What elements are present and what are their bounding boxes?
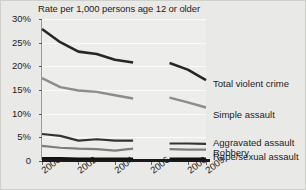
x-axis-tick	[188, 162, 189, 165]
x-axis-tick	[115, 162, 116, 165]
y-axis-tick	[39, 66, 42, 67]
series-line	[42, 29, 133, 63]
x-axis-tick	[151, 162, 152, 165]
y-axis-tick	[39, 90, 42, 91]
y-axis-tick	[39, 43, 42, 44]
y-axis-tick	[39, 19, 42, 20]
series-line	[42, 78, 133, 98]
data-lines	[1, 1, 306, 190]
x-axis-tick	[78, 162, 79, 165]
x-axis-tick	[206, 162, 207, 165]
legend-label-simple-assault: Simple assault	[213, 109, 275, 120]
chart-figure: Rate per 1,000 persons age 12 or older 3…	[0, 0, 306, 190]
x-axis-tick	[42, 162, 43, 165]
y-axis-tick	[39, 137, 42, 138]
legend-label-total-violent-crime: Total violent crime	[213, 78, 289, 89]
legend-label-rape-sexual-assault: Rape/sexual assault	[213, 151, 299, 162]
series-line	[42, 134, 133, 141]
y-axis-tick	[39, 114, 42, 115]
series-line	[170, 63, 206, 80]
series-line	[42, 146, 133, 151]
series-line	[170, 98, 206, 108]
